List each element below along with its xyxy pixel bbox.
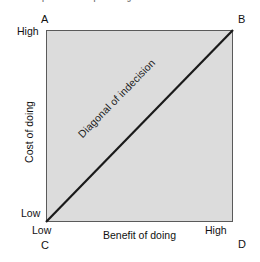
corner-label-d: D	[238, 238, 246, 250]
cost-benefit-matrix-diagram: Diagonal of indecision A B C D High Low …	[0, 0, 260, 262]
y-axis-title: Cost of doing	[23, 82, 35, 182]
y-axis-tick-low: Low	[21, 207, 40, 219]
x-axis-title: Benefit of doing	[46, 229, 233, 241]
corner-label-b: B	[238, 13, 245, 25]
corner-label-a: A	[41, 13, 48, 25]
y-axis-tick-high: High	[17, 25, 39, 37]
diagonal-line	[46, 30, 233, 222]
